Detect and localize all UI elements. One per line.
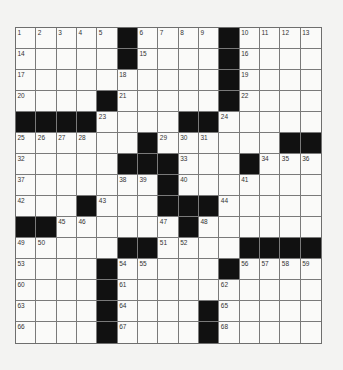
answer-cell[interactable]: 21 [118,91,138,112]
answer-cell[interactable] [179,301,199,322]
answer-cell[interactable]: 23 [97,112,117,133]
answer-cell[interactable] [36,301,56,322]
answer-cell[interactable]: 24 [219,112,239,133]
answer-cell[interactable] [301,175,321,196]
answer-cell[interactable] [260,49,280,70]
answer-cell[interactable]: 46 [77,217,97,238]
answer-cell[interactable]: 19 [240,70,260,91]
answer-cell[interactable] [260,301,280,322]
answer-cell[interactable]: 5 [97,28,117,49]
answer-cell[interactable] [199,154,219,175]
answer-cell[interactable]: 68 [219,322,239,343]
answer-cell[interactable]: 57 [260,259,280,280]
answer-cell[interactable]: 36 [301,154,321,175]
answer-cell[interactable] [179,322,199,343]
answer-cell[interactable]: 13 [301,28,321,49]
answer-cell[interactable] [199,175,219,196]
answer-cell[interactable]: 31 [199,133,219,154]
answer-cell[interactable] [138,217,158,238]
answer-cell[interactable] [280,322,300,343]
answer-cell[interactable]: 54 [118,259,138,280]
answer-cell[interactable]: 61 [118,280,138,301]
answer-cell[interactable] [97,49,117,70]
answer-cell[interactable]: 53 [16,259,36,280]
answer-cell[interactable] [97,133,117,154]
answer-cell[interactable]: 18 [118,70,138,91]
answer-cell[interactable] [77,322,97,343]
answer-cell[interactable] [219,133,239,154]
answer-cell[interactable] [97,154,117,175]
answer-cell[interactable]: 16 [240,49,260,70]
answer-cell[interactable] [280,91,300,112]
answer-cell[interactable]: 7 [158,28,178,49]
answer-cell[interactable]: 38 [118,175,138,196]
answer-cell[interactable]: 11 [260,28,280,49]
answer-cell[interactable]: 25 [16,133,36,154]
answer-cell[interactable] [219,238,239,259]
answer-cell[interactable] [280,70,300,91]
answer-cell[interactable] [158,91,178,112]
answer-cell[interactable] [260,217,280,238]
answer-cell[interactable] [57,322,77,343]
answer-cell[interactable]: 65 [219,301,239,322]
answer-cell[interactable] [138,91,158,112]
answer-cell[interactable] [138,112,158,133]
answer-cell[interactable] [36,175,56,196]
answer-cell[interactable] [219,217,239,238]
answer-cell[interactable] [77,70,97,91]
answer-cell[interactable] [240,322,260,343]
answer-cell[interactable] [57,301,77,322]
answer-cell[interactable] [118,217,138,238]
answer-cell[interactable] [179,49,199,70]
answer-cell[interactable] [219,175,239,196]
answer-cell[interactable]: 17 [16,70,36,91]
answer-cell[interactable]: 42 [16,196,36,217]
answer-cell[interactable] [260,322,280,343]
answer-cell[interactable] [240,133,260,154]
answer-cell[interactable] [97,70,117,91]
answer-cell[interactable]: 20 [16,91,36,112]
answer-cell[interactable] [219,154,239,175]
answer-cell[interactable] [260,91,280,112]
answer-cell[interactable]: 44 [219,196,239,217]
answer-cell[interactable] [179,280,199,301]
answer-cell[interactable] [240,301,260,322]
answer-cell[interactable]: 2 [36,28,56,49]
answer-cell[interactable]: 35 [280,154,300,175]
answer-cell[interactable] [158,70,178,91]
answer-cell[interactable] [57,196,77,217]
answer-cell[interactable]: 14 [16,49,36,70]
answer-cell[interactable] [280,112,300,133]
answer-cell[interactable] [57,280,77,301]
answer-cell[interactable] [199,49,219,70]
answer-cell[interactable] [199,238,219,259]
answer-cell[interactable]: 12 [280,28,300,49]
answer-cell[interactable]: 28 [77,133,97,154]
answer-cell[interactable] [36,49,56,70]
answer-cell[interactable] [36,280,56,301]
answer-cell[interactable]: 4 [77,28,97,49]
answer-cell[interactable]: 30 [179,133,199,154]
answer-cell[interactable]: 66 [16,322,36,343]
answer-cell[interactable] [36,91,56,112]
answer-cell[interactable] [280,175,300,196]
answer-cell[interactable] [260,112,280,133]
answer-cell[interactable] [57,91,77,112]
answer-cell[interactable]: 49 [16,238,36,259]
answer-cell[interactable] [301,280,321,301]
answer-cell[interactable]: 51 [158,238,178,259]
answer-cell[interactable]: 40 [179,175,199,196]
answer-cell[interactable]: 27 [57,133,77,154]
answer-cell[interactable]: 43 [97,196,117,217]
answer-cell[interactable] [240,217,260,238]
answer-cell[interactable] [118,196,138,217]
answer-cell[interactable]: 59 [301,259,321,280]
answer-cell[interactable] [280,280,300,301]
answer-cell[interactable] [179,70,199,91]
answer-cell[interactable] [158,49,178,70]
answer-cell[interactable] [260,70,280,91]
answer-cell[interactable]: 58 [280,259,300,280]
answer-cell[interactable]: 1 [16,28,36,49]
answer-cell[interactable]: 45 [57,217,77,238]
answer-cell[interactable] [301,70,321,91]
